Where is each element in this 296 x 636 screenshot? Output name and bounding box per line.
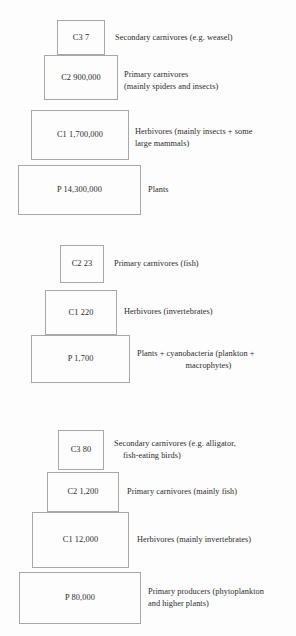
pyramid-3-tier-c3-box-label: C3 80 xyxy=(71,445,92,454)
pyramid-1-tier-c1-description: Herbivores (mainly insects + some large … xyxy=(135,126,296,149)
pyramid-1-tier-c1-box: C1 1,700,000 xyxy=(31,110,129,160)
pyramid-2-tier-c1-description-line1: Herbivores (invertebrates) xyxy=(124,307,213,316)
pyramid-3-tier-c2-box: C2 1,200 xyxy=(47,472,119,512)
pyramid-3-tier-c3-box: C3 80 xyxy=(58,430,104,470)
pyramid-2-tier-c1-box: C1 220 xyxy=(45,290,117,335)
pyramid-2-tier-p-box-label: P 1,700 xyxy=(68,354,94,363)
pyramid-3-tier-c3-description: Secondary carnivores (e.g. alligator, fi… xyxy=(114,438,296,461)
pyramid-3-tier-c1-description: Herbivores (mainly invertebrates) xyxy=(137,534,295,546)
pyramid-1-tier-c2-description: Primary carnivores (mainly spiders and i… xyxy=(124,69,296,92)
pyramid-2-tier-c1-box-label: C1 220 xyxy=(69,308,94,317)
pyramid-1-tier-p-box-label: P 14,300,000 xyxy=(57,185,102,194)
pyramid-3-tier-p-description: Primary producers (phytoplankton and hig… xyxy=(148,586,296,609)
pyramid-1-tier-c1-box-label: C1 1,700,000 xyxy=(57,130,103,139)
pyramid-1-tier-c3-description: Secondary carnivores (e.g. weasel) xyxy=(115,32,293,44)
pyramid-3-tier-p-box-label: P 80,000 xyxy=(65,593,95,602)
pyramid-1-tier-c2-description-line2: (mainly spiders and insects) xyxy=(124,81,296,93)
pyramid-2-tier-p-box: P 1,700 xyxy=(31,335,130,383)
pyramid-1: C3 7 Secondary carnivores (e.g. weasel) … xyxy=(0,0,296,220)
pyramid-2-tier-c2-box-label: C2 23 xyxy=(72,259,93,268)
pyramid-3-tier-c1-box: C1 12,000 xyxy=(32,512,129,568)
pyramid-1-tier-c3-box-label: C3 7 xyxy=(73,33,89,42)
pyramid-3-tier-c2-description: Primary carnivores (mainly fish) xyxy=(127,486,295,498)
pyramid-2: C2 23 Primary carnivores (fish) C1 220 H… xyxy=(0,245,296,385)
pyramid-3-tier-c1-box-label: C1 12,000 xyxy=(63,535,98,544)
pyramid-1-tier-c2-box: C2 900,000 xyxy=(44,55,118,100)
pyramid-3-tier-c1-description-line1: Herbivores (mainly invertebrates) xyxy=(137,535,251,544)
pyramid-2-tier-c1-description: Herbivores (invertebrates) xyxy=(124,306,294,318)
pyramid-3-tier-c2-description-line1: Primary carnivores (mainly fish) xyxy=(127,487,237,496)
pyramid-2-tier-c2-box: C2 23 xyxy=(60,245,104,283)
pyramid-3-tier-c3-description-line1: Secondary carnivores (e.g. alligator, xyxy=(114,439,236,448)
pyramid-1-tier-c3-description-line1: Secondary carnivores (e.g. weasel) xyxy=(115,33,233,42)
pyramid-3-tier-p-description-line1: Primary producers (phytoplankton xyxy=(148,587,264,596)
pyramid-3-tier-p-box: P 80,000 xyxy=(19,572,141,624)
pyramid-3: C3 80 Secondary carnivores (e.g. alligat… xyxy=(0,430,296,630)
pyramid-1-tier-p-description-line1: Plants xyxy=(148,185,169,194)
pyramid-1-tier-c3-box: C3 7 xyxy=(57,20,105,55)
pyramid-1-tier-p-description: Plants xyxy=(148,184,296,196)
pyramid-3-tier-c3-description-line2: fish-eating birds) xyxy=(114,450,296,462)
pyramid-1-tier-p-box: P 14,300,000 xyxy=(18,165,141,215)
pyramid-1-tier-c1-description-line2: large mammals) xyxy=(135,138,296,150)
pyramid-2-tier-p-description-line1: Plants + cyanobacteria (plankton + xyxy=(137,349,255,358)
pyramid-2-tier-p-description: Plants + cyanobacteria (plankton + macro… xyxy=(137,348,296,371)
pyramid-2-tier-c2-description: Primary carnivores (fish) xyxy=(114,258,294,270)
pyramid-1-tier-c2-description-line1: Primary carnivores xyxy=(124,70,188,79)
pyramid-3-tier-c2-box-label: C2 1,200 xyxy=(67,487,98,496)
pyramid-2-tier-p-description-line2: macrophytes) xyxy=(137,360,296,372)
pyramid-2-tier-c2-description-line1: Primary carnivores (fish) xyxy=(114,259,199,268)
pyramid-3-tier-p-description-line2: and higher plants) xyxy=(148,598,296,610)
pyramid-figure-page: C3 7 Secondary carnivores (e.g. weasel) … xyxy=(0,0,296,636)
pyramid-1-tier-c2-box-label: C2 900,000 xyxy=(61,73,101,82)
pyramid-1-tier-c1-description-line1: Herbivores (mainly insects + some xyxy=(135,127,252,136)
